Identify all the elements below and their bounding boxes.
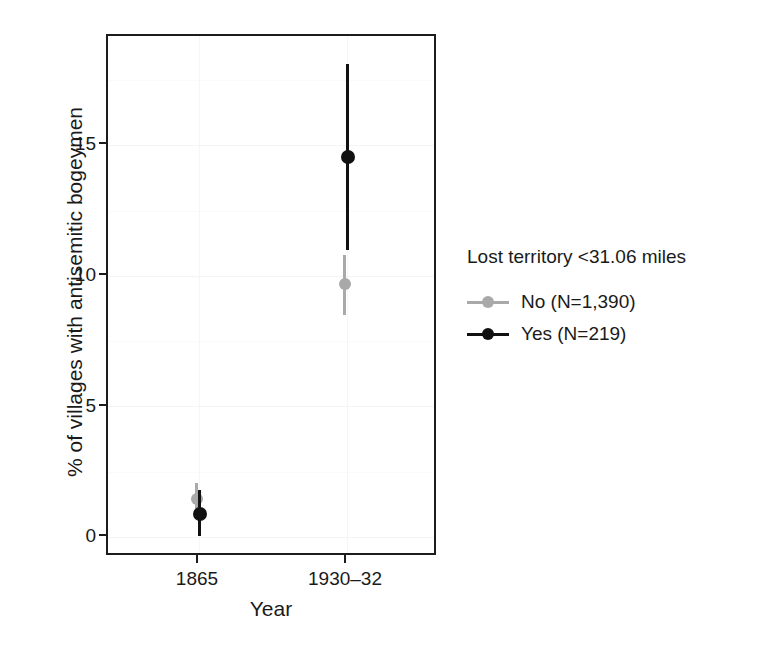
ytick-mark-10 bbox=[99, 273, 106, 275]
xtick-mark-1930-32 bbox=[344, 555, 346, 563]
legend-key-no-icon bbox=[467, 292, 509, 312]
gridline-y-minor-2 bbox=[108, 472, 434, 473]
gridline-y-minor-17 bbox=[108, 80, 434, 81]
legend-key-yes-icon bbox=[467, 324, 509, 344]
data-point-no-1865 bbox=[191, 493, 203, 505]
gridline-y-minor-7 bbox=[108, 341, 434, 342]
legend-entry-yes[interactable]: Yes (N=219) bbox=[467, 318, 767, 350]
ytick-label-5: 5 bbox=[85, 396, 96, 415]
gridline-y-0 bbox=[108, 537, 434, 538]
xtick-label-1930-32: 1930‒32 bbox=[285, 568, 405, 590]
data-point-yes-1865 bbox=[193, 507, 207, 521]
gridline-y-15 bbox=[108, 145, 434, 146]
legend-title: Lost territory <31.06 miles bbox=[467, 246, 767, 268]
y-axis-title: % of villages with antisemitic bogeymen bbox=[63, 32, 87, 552]
data-point-yes-1930-32 bbox=[341, 150, 355, 164]
gridline-x-1865 bbox=[199, 36, 200, 553]
ytick-mark-15 bbox=[99, 142, 106, 144]
xtick-label-1865: 1865 bbox=[137, 568, 257, 590]
gridline-y-5 bbox=[108, 406, 434, 407]
legend-label-no: No (N=1,390) bbox=[521, 291, 636, 313]
gridline-y-minor-12 bbox=[108, 211, 434, 212]
ytick-mark-0 bbox=[99, 534, 106, 536]
ytick-mark-5 bbox=[99, 404, 106, 406]
legend-label-yes: Yes (N=219) bbox=[521, 323, 626, 345]
gridline-y-10 bbox=[108, 276, 434, 277]
x-axis-title: Year bbox=[106, 597, 436, 621]
plot-panel bbox=[106, 34, 436, 555]
ytick-label-0: 0 bbox=[85, 526, 96, 545]
data-point-no-1930-32 bbox=[339, 278, 351, 290]
legend: Lost territory <31.06 miles No (N=1,390)… bbox=[467, 246, 767, 350]
chart-figure: 15 10 5 0 % of villages with antisemitic… bbox=[0, 0, 770, 645]
xtick-mark-1865 bbox=[196, 555, 198, 563]
legend-entry-no[interactable]: No (N=1,390) bbox=[467, 286, 767, 318]
